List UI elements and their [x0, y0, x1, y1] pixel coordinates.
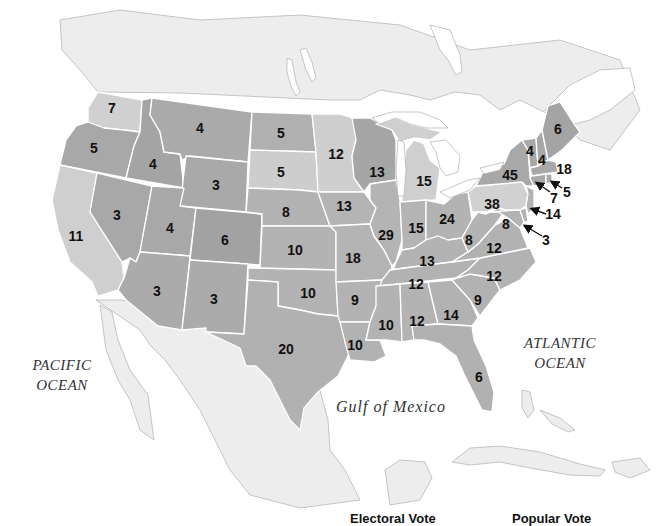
label-virginia: 12 — [486, 240, 502, 256]
atlantic-ocean-label-1: ATLANTIC — [523, 335, 596, 351]
label-new-hampshire: 4 — [538, 152, 546, 168]
cuba — [452, 446, 605, 476]
hispaniola — [612, 458, 650, 478]
label-connecticut: 7 — [550, 190, 558, 206]
label-nebraska: 8 — [282, 204, 290, 220]
yucatan — [385, 460, 432, 505]
label-kansas: 10 — [287, 242, 303, 258]
label-louisiana: 10 — [347, 337, 363, 353]
label-new-york: 45 — [502, 167, 518, 183]
label-arkansas: 9 — [351, 292, 359, 308]
label-rhode-island: 5 — [563, 184, 571, 200]
label-idaho: 4 — [149, 156, 157, 172]
label-new-jersey: 14 — [545, 206, 561, 222]
label-florida: 6 — [475, 369, 483, 385]
label-montana: 4 — [196, 120, 204, 136]
label-washington: 7 — [108, 100, 116, 116]
label-wyoming: 3 — [212, 177, 220, 193]
label-pennsylvania: 38 — [484, 196, 500, 212]
label-georgia: 14 — [443, 307, 459, 323]
label-south-carolina: 9 — [474, 292, 482, 308]
arrow-new-jersey — [532, 209, 546, 214]
legend-electoral-vote: Electoral Vote — [350, 511, 436, 526]
lake-michigan — [396, 140, 406, 196]
label-texas: 20 — [278, 341, 294, 357]
label-oklahoma: 10 — [300, 285, 316, 301]
label-tennessee: 12 — [408, 276, 424, 292]
bahamas — [522, 390, 534, 418]
label-mississippi: 10 — [378, 317, 394, 333]
label-massachusetts: 18 — [556, 161, 572, 177]
atlantic-ocean-label-2: OCEAN — [534, 355, 586, 371]
label-maine: 6 — [554, 121, 562, 137]
gulf-of-mexico-label: Gulf of Mexico — [336, 398, 446, 416]
label-arizona: 3 — [153, 283, 161, 299]
label-illinois: 29 — [378, 227, 394, 243]
label-missouri: 18 — [345, 250, 361, 266]
label-north-dakota: 5 — [277, 125, 285, 141]
label-kentucky: 13 — [419, 253, 435, 269]
label-ohio: 24 — [439, 211, 455, 227]
label-minnesota: 12 — [328, 146, 344, 162]
pacific-ocean-label-2: OCEAN — [36, 377, 88, 393]
bahamas-2 — [540, 410, 575, 432]
label-nevada: 3 — [113, 207, 121, 223]
label-alabama: 12 — [409, 313, 425, 329]
label-south-dakota: 5 — [277, 164, 285, 180]
label-north-carolina: 12 — [486, 268, 502, 284]
label-wisconsin: 13 — [369, 164, 385, 180]
label-west-virginia: 8 — [465, 232, 473, 248]
arrow-delaware — [525, 226, 542, 236]
legend-popular-vote: Popular Vote — [512, 511, 591, 526]
arrow-rhode-island — [552, 182, 562, 188]
label-indiana: 15 — [408, 220, 424, 236]
label-utah: 4 — [166, 220, 174, 236]
label-california: 11 — [69, 228, 84, 244]
label-michigan: 15 — [416, 173, 432, 189]
label-delaware: 3 — [542, 232, 550, 248]
label-colorado: 6 — [221, 232, 229, 248]
label-maryland: 8 — [502, 216, 510, 232]
label-iowa: 13 — [336, 198, 352, 214]
label-new-mexico: 3 — [210, 291, 218, 307]
label-oregon: 5 — [90, 140, 98, 156]
state-rhode-island[interactable] — [546, 174, 552, 184]
label-vermont: 4 — [526, 143, 534, 159]
pacific-ocean-label-1: PACIFIC — [31, 357, 92, 373]
